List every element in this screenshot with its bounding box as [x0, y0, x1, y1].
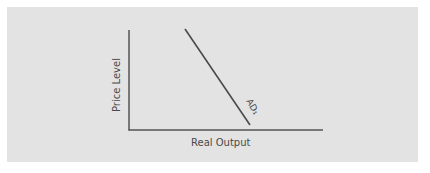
ad-diagram: AD₁ Price Level Real Output	[0, 0, 430, 173]
y-axis-label: Price Level	[111, 58, 122, 112]
x-axis-label: Real Output	[191, 137, 251, 148]
ad-curve	[185, 29, 250, 125]
curve-label-ad1: AD₁	[244, 97, 261, 117]
